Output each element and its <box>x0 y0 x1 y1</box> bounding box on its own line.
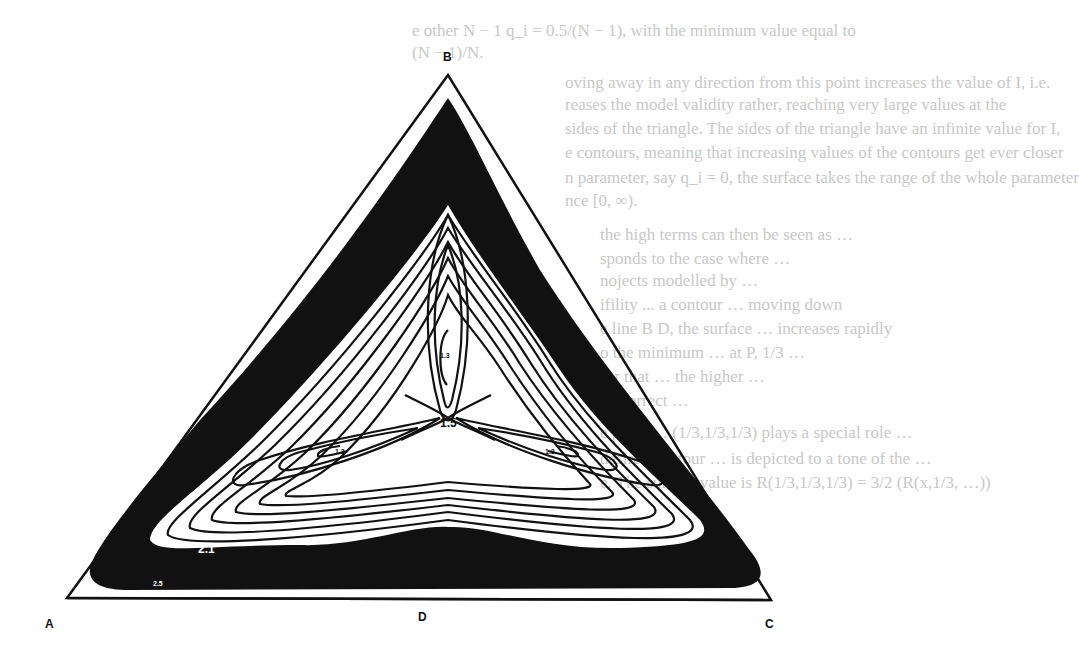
vertex-label-d: D <box>418 610 427 624</box>
contour-label-left: 1.3 <box>335 448 345 455</box>
vertex-label-a: A <box>45 617 54 631</box>
vertex-label-c: C <box>765 617 774 631</box>
contour-label-right: 1.3 <box>545 448 555 455</box>
vertex-label-b: B <box>443 50 452 64</box>
contour-label-2-1: 2.1 <box>198 542 215 556</box>
contour-label-upper: 1.3 <box>440 352 450 359</box>
contour-label-2-5: 2.5 <box>153 580 163 587</box>
contour-label-saddle: 1.5 <box>440 416 457 430</box>
